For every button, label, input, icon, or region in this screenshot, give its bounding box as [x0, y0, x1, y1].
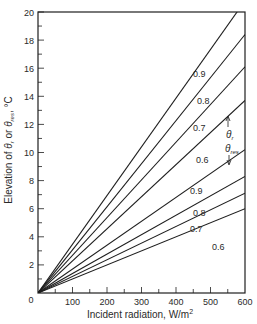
y-tick-label: 14 [24, 92, 34, 102]
svg-text:θres: θres [225, 143, 239, 155]
series-label: 0.9 [190, 186, 203, 196]
chart: 2468101214161820 100200300400500600 0.90… [0, 0, 257, 324]
y-tick-label: 10 [24, 148, 34, 158]
series-line [38, 67, 245, 293]
origin-label: 0 [28, 295, 33, 305]
x-axis-title: Incident radiation, W/m2 [87, 308, 193, 320]
y-tick-label: 18 [24, 36, 34, 46]
y-tick-label: 4 [29, 232, 34, 242]
svg-text:θr: θr [226, 129, 234, 141]
x-tick-label: 500 [203, 297, 218, 307]
x-tick-label: 200 [99, 297, 114, 307]
x-tick-label: 100 [65, 297, 80, 307]
y-axis-ticks: 2468101214161820 [24, 8, 44, 279]
x-tick-label: 300 [134, 297, 149, 307]
y-tick-label: 8 [29, 176, 34, 186]
y-tick-label: 6 [29, 204, 34, 214]
series-line [38, 34, 245, 293]
series-label: 0.6 [212, 242, 225, 252]
series-label: 0.7 [190, 224, 203, 234]
x-tick-label: 400 [168, 297, 183, 307]
series-label: 0.6 [196, 155, 209, 165]
y-tick-label: 16 [24, 64, 34, 74]
series-label: 0.7 [193, 123, 206, 133]
x-tick-label: 600 [237, 297, 252, 307]
y-tick-label: 12 [24, 120, 34, 130]
series-label: 0.9 [193, 69, 206, 79]
x-axis-ticks: 100200300400500600 [55, 287, 252, 307]
series-line [38, 176, 245, 293]
series-line [38, 101, 245, 293]
y-tick-label: 2 [29, 260, 34, 270]
series-label: 0.8 [197, 96, 210, 106]
series-label: 0.8 [193, 208, 206, 218]
y-axis-title: Elevation of θr or θres, °C [3, 96, 15, 204]
theta-r-annotation: θr [226, 116, 234, 141]
y-tick-label: 20 [24, 8, 34, 18]
